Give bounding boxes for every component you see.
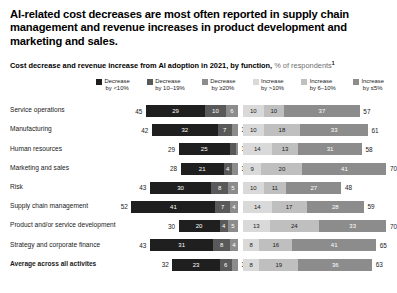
bar-segment[interactable]: 7 (218, 124, 232, 136)
decrease-bar[interactable]: 29106 (146, 105, 238, 117)
decrease-bar[interactable]: 2045 (179, 220, 238, 232)
decrease-bar-group: 236323 (162, 259, 238, 271)
chart-row: Manufacturing32742310183361 (0, 122, 390, 141)
bar-segment[interactable]: 25 (179, 143, 230, 155)
bar-segment[interactable]: 41 (131, 201, 215, 213)
bar-segment[interactable]: 37 (284, 105, 360, 117)
bar-segment[interactable]: 31 (150, 239, 214, 251)
bar-segment-value: 41 (341, 166, 348, 172)
bar-segment[interactable]: 11 (264, 182, 287, 194)
bar-segment[interactable]: 23 (172, 259, 219, 271)
decrease-total-label: 43 (139, 242, 150, 249)
decrease-bar[interactable]: 4174 (131, 201, 238, 213)
decrease-bar[interactable]: 214 (181, 163, 238, 175)
chart-row: Average across all activites236323819366… (0, 257, 390, 276)
legend-label-line2: by ≤5% (361, 85, 384, 92)
bar-segment[interactable]: 4 (230, 201, 238, 213)
bar-segment[interactable]: 5 (228, 182, 238, 194)
chart-plot-area: Service operations291064510103757Manufac… (0, 103, 390, 276)
bar-segment[interactable]: 14 (243, 143, 272, 155)
increase-bar[interactable]: 101037 (243, 105, 360, 117)
bar-segment[interactable]: 30 (150, 182, 212, 194)
bar-segment[interactable]: 16 (259, 239, 292, 251)
bar-segment[interactable]: 6 (226, 105, 238, 117)
bar-segment[interactable]: 20 (261, 163, 302, 175)
bar-segment[interactable]: 33 (300, 124, 368, 136)
increase-bar[interactable]: 101127 (243, 182, 341, 194)
increase-bar[interactable]: 81936 (243, 259, 372, 271)
bar-segment[interactable]: 17 (272, 201, 307, 213)
decrease-total-label: 30 (168, 223, 179, 230)
bar-segment[interactable]: 13 (243, 220, 270, 232)
bar-segment-value: 4 (226, 166, 229, 172)
bar-segment-value: 19 (276, 262, 283, 268)
legend-item[interactable]: Increaseby >10% (253, 78, 285, 92)
decrease-bar[interactable]: 327 (152, 124, 238, 136)
legend-item[interactable]: Increaseby ≤5% (353, 78, 384, 92)
decrease-bar[interactable]: 3184 (150, 239, 238, 251)
legend-item[interactable]: Increaseby 6–10% (301, 78, 336, 92)
legend-item[interactable]: Decreaseby 10–19% (147, 78, 185, 92)
bar-segment[interactable]: 33 (319, 220, 387, 232)
bar-segment[interactable]: 8 (243, 239, 259, 251)
bar-segment[interactable]: 10 (243, 105, 264, 117)
bar-segment-value: 13 (253, 223, 260, 229)
increase-bar[interactable]: 101833 (243, 124, 368, 136)
bar-segment[interactable]: 4 (230, 239, 238, 251)
bar-segment[interactable]: 8 (243, 259, 259, 271)
bar-segment[interactable]: 14 (243, 201, 272, 213)
bar-segment[interactable]: 6 (220, 259, 232, 271)
bar-segment[interactable]: 7 (215, 201, 229, 213)
bar-segment[interactable]: 24 (270, 220, 319, 232)
bar-segment-value: 10 (250, 185, 257, 191)
bar-segment[interactable]: 41 (302, 163, 386, 175)
bar-segment[interactable]: 9 (243, 163, 261, 175)
increase-bar[interactable]: 132433 (243, 220, 386, 232)
decrease-bar[interactable]: 25 (179, 143, 238, 155)
legend-item[interactable]: Decreaseby ≥20% (202, 78, 236, 92)
bar-segment-value: 10 (250, 127, 257, 133)
bar-segment[interactable]: 41 (292, 239, 376, 251)
legend-label-line1: Decrease (210, 78, 235, 84)
legend-item[interactable]: Decreaseby <10% (96, 78, 130, 92)
bar-segment[interactable]: 32 (152, 124, 218, 136)
bar-segment[interactable]: 4 (224, 163, 232, 175)
bar-segment-value: 7 (223, 127, 226, 133)
bar-segment-value: 33 (349, 223, 356, 229)
legend-label-line1: Increase (310, 78, 333, 84)
bar-segment[interactable]: 28 (307, 201, 364, 213)
bar-segment[interactable]: 27 (286, 182, 341, 194)
legend-label-line2: by <10% (105, 85, 130, 92)
bar-segment[interactable]: 13 (272, 143, 299, 155)
bar-segment[interactable]: 36 (298, 259, 372, 271)
bar-segment[interactable]: 10 (205, 105, 226, 117)
bar-segment[interactable]: 10 (264, 105, 285, 117)
chart-row-label: Supply chain management (10, 202, 88, 209)
bar-segment[interactable]: 8 (211, 182, 227, 194)
bar-segment[interactable]: 5 (228, 220, 238, 232)
bar-segment[interactable]: 21 (181, 163, 224, 175)
bar-segment[interactable]: 20 (179, 220, 220, 232)
legend-swatch-icon (202, 79, 208, 85)
bar-segment[interactable]: 29 (146, 105, 205, 117)
increase-bar[interactable]: 92041 (243, 163, 386, 175)
decrease-total-label: 32 (162, 261, 173, 268)
increase-bar[interactable]: 141728 (243, 201, 364, 213)
bar-segment[interactable]: 19 (259, 259, 298, 271)
increase-bar-group: 8164165 (243, 239, 387, 251)
bar-segment[interactable]: 18 (264, 124, 301, 136)
legend-label-line2: by 6–10% (310, 85, 336, 92)
decrease-bar[interactable]: 236 (172, 259, 238, 271)
legend-swatch-icon (301, 79, 307, 85)
bar-segment[interactable]: 31 (298, 143, 362, 155)
bar-segment[interactable]: 8 (213, 239, 229, 251)
increase-bar[interactable]: 81641 (243, 239, 376, 251)
bar-segment[interactable]: 10 (243, 182, 264, 194)
bar-segment[interactable]: 10 (243, 124, 264, 136)
decrease-bar[interactable]: 3085 (150, 182, 238, 194)
increase-bar[interactable]: 141331 (243, 143, 362, 155)
bar-segment[interactable]: 4 (220, 220, 228, 232)
chart-row: Service operations291064510103757 (0, 103, 390, 122)
legend-label-line2: by 10–19% (155, 85, 184, 92)
bar-segment-value: 4 (232, 204, 235, 210)
